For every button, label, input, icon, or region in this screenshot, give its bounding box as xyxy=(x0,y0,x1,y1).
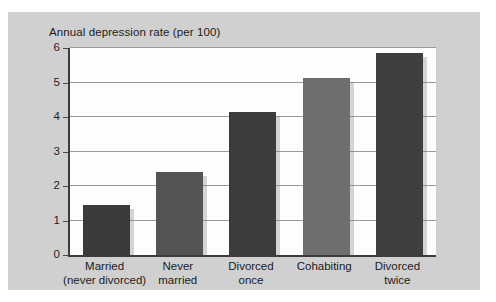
bar-slot xyxy=(363,48,436,255)
figure-panel: Annual depression rate (per 100) 0123456… xyxy=(8,12,480,290)
bar xyxy=(83,205,130,255)
x-axis-label: Divorcedtwice xyxy=(349,260,446,287)
bar-slot xyxy=(70,48,143,255)
y-tick-label: 1 xyxy=(34,214,60,226)
y-tick-label: 6 xyxy=(34,41,60,53)
bar xyxy=(303,78,350,255)
y-tick-label: 3 xyxy=(34,145,60,157)
y-tick-mark xyxy=(63,48,68,49)
y-tick-label: 4 xyxy=(34,110,60,122)
bar xyxy=(376,53,423,255)
y-tick-label: 2 xyxy=(34,179,60,191)
chart-title: Annual depression rate (per 100) xyxy=(49,26,220,38)
bar-slot xyxy=(290,48,363,255)
y-tick-mark xyxy=(63,152,68,153)
x-axis-label-line: Divorced xyxy=(349,260,446,274)
x-axis-label-line: twice xyxy=(349,274,446,288)
bar xyxy=(156,172,203,255)
bar-slot xyxy=(216,48,289,255)
y-tick-mark xyxy=(63,83,68,84)
y-tick-mark xyxy=(63,117,68,118)
plot-area xyxy=(68,48,436,257)
bar xyxy=(229,112,276,255)
y-tick-label: 0 xyxy=(34,248,60,260)
y-tick-mark xyxy=(63,221,68,222)
bar-series xyxy=(70,48,436,255)
bar-slot xyxy=(143,48,216,255)
x-axis-label-line: once xyxy=(202,274,299,288)
y-tick-mark xyxy=(63,186,68,187)
y-tick-mark xyxy=(63,255,68,256)
y-tick-label: 5 xyxy=(34,76,60,88)
